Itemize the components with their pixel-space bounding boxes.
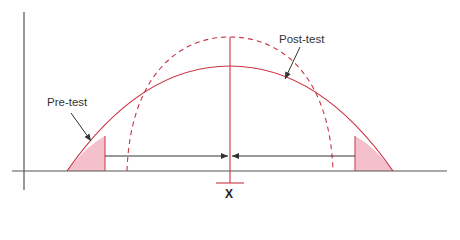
post-test-pointer-arrow: [285, 47, 300, 79]
post-test-label: Post-test: [279, 33, 324, 45]
pre-test-label: Pre-test: [47, 96, 87, 108]
pre-test-pointer-arrow: [71, 113, 91, 141]
x-marker-label: X: [225, 187, 233, 201]
left-shaded-tail: [67, 136, 105, 171]
right-shaded-tail: [355, 136, 393, 171]
